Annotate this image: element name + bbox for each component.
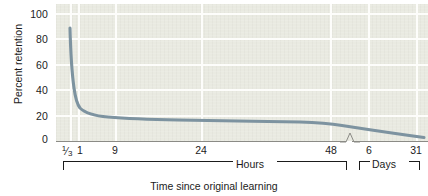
y-tick-label: 0	[18, 133, 48, 145]
hours-bracket-left	[63, 161, 233, 170]
forgetting-curve-figure: 100 80 60 40 20 0 Percent retention 1⁄3 …	[0, 0, 428, 196]
days-bracket-right	[409, 161, 420, 170]
x-tick-label: 24	[195, 144, 207, 156]
x-tick-label: 9	[112, 144, 118, 156]
x-tick-label: 6	[366, 144, 372, 156]
fraction-denominator: 3	[68, 149, 72, 158]
x-axis-line-right	[352, 141, 428, 142]
fraction-numerator: 1	[62, 144, 66, 153]
x-tick-label: 48	[325, 144, 337, 156]
hours-bracket-right	[277, 161, 347, 170]
x-tick-label: 1	[77, 144, 83, 156]
x-axis-title: Time since original learning	[0, 180, 428, 192]
x-tick-label-one-third: 1⁄3	[62, 144, 73, 158]
days-bracket-left	[359, 161, 370, 170]
x-axis-line-left	[56, 141, 346, 142]
x-tick-label: 31	[410, 144, 422, 156]
hours-group-label: Hours	[236, 158, 264, 170]
y-axis-title: Percent retention	[12, 4, 24, 124]
axis-break-icon	[340, 132, 360, 143]
days-group-label: Days	[372, 158, 396, 170]
